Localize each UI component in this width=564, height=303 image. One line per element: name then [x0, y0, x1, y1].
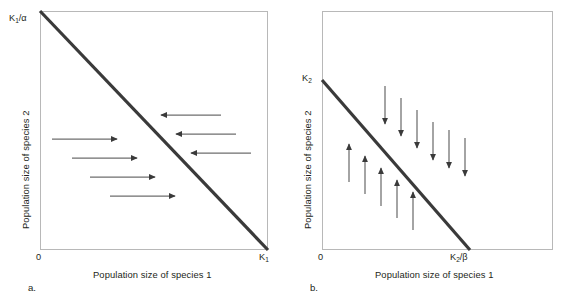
- plot-graphics-b: [282, 0, 564, 303]
- origin-label-b: 0: [318, 252, 323, 262]
- arrow-group-up: [349, 144, 413, 230]
- arrow-group-left: [161, 115, 251, 153]
- plot-graphics-a: [0, 0, 282, 303]
- y-axis-title-b: Population size of species 2: [302, 111, 313, 229]
- x-axis-title-a: Population size of species 1: [93, 269, 211, 280]
- isocline-species-2: [322, 80, 470, 250]
- y-axis-title-a: Population size of species 2: [20, 111, 31, 229]
- panel-a: K1/α 0 K1 Population size of species 2 P…: [0, 0, 282, 303]
- isocline-species-1: [40, 11, 268, 250]
- arrow-group-down: [385, 86, 465, 176]
- y-intercept-label-b: K2: [302, 73, 312, 83]
- panel-letter-b: b.: [310, 282, 318, 293]
- panel-b: K2 0 K2/β Population size of species 2 P…: [282, 0, 564, 303]
- panel-letter-a: a.: [28, 282, 36, 293]
- arrow-group-right: [52, 139, 175, 196]
- y-intercept-label-a: K1/α: [9, 13, 27, 23]
- x-axis-title-b: Population size of species 1: [375, 269, 493, 280]
- x-intercept-label-b: K2/β: [450, 252, 468, 262]
- x-intercept-label-a: K1: [259, 252, 269, 262]
- origin-label-a: 0: [36, 252, 41, 262]
